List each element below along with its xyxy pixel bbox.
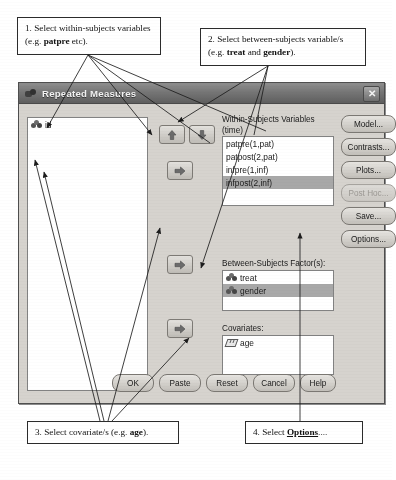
callout-step-3: 3. Select covariate/s (e.g. age). — [27, 421, 179, 444]
dialog-title: Repeated Measures — [42, 88, 136, 99]
list-item[interactable]: id — [28, 118, 147, 131]
callout-step-1: 1. Select within-subjects variables (e.g… — [17, 17, 161, 55]
callout-2-tail: ). — [290, 47, 295, 57]
arrow-right-icon — [173, 259, 187, 271]
callout-3-lead: 3. Select covariate/s (e.g. — [35, 427, 130, 437]
help-button[interactable]: Help — [300, 374, 336, 392]
callout-2-bold2: gender — [263, 47, 290, 57]
within-variable-label: infpre(1,inf) — [226, 165, 268, 175]
variables-icon — [25, 88, 37, 99]
callout-4-tail: .... — [318, 427, 327, 437]
within-subjects-factor-label: (time) — [222, 126, 243, 135]
nominal-icon — [226, 286, 237, 296]
between-variable-label: gender — [240, 286, 266, 296]
save-button-label: Save... — [356, 212, 382, 221]
arrow-right-icon — [173, 323, 187, 335]
scale-icon — [226, 338, 237, 348]
move-to-between-subjects-button[interactable] — [167, 255, 193, 274]
reset-button[interactable]: Reset — [206, 374, 248, 392]
ok-button-label: OK — [127, 379, 139, 388]
callout-2-bold: treat — [227, 47, 246, 57]
list-item[interactable]: patpost(2,pat) — [223, 150, 333, 163]
list-item[interactable]: treat — [223, 271, 333, 284]
plots-button[interactable]: Plots... — [341, 161, 396, 179]
contrasts-button[interactable]: Contrasts... — [341, 138, 396, 156]
within-variable-label: infpost(2,inf) — [226, 178, 272, 188]
arrow-down-icon — [195, 129, 209, 141]
between-subjects-label: Between-Subjects Factor(s): — [222, 259, 325, 268]
callout-4-lead: 4. Select — [253, 427, 287, 437]
covariates-list[interactable]: age — [222, 335, 334, 375]
dialog-body: id — [19, 103, 384, 403]
save-button[interactable]: Save... — [341, 207, 396, 225]
source-variable-list[interactable]: id — [27, 117, 148, 391]
help-button-label: Help — [310, 379, 327, 388]
post-hoc-button: Post Hoc... — [341, 184, 396, 202]
list-item[interactable]: infpre(1,inf) — [223, 163, 333, 176]
paste-button-label: Paste — [170, 379, 191, 388]
covariates-label: Covariates: — [222, 324, 263, 333]
callout-3-bold: age — [130, 427, 143, 437]
callout-2-mid: and — [245, 47, 263, 57]
close-icon[interactable]: ✕ — [363, 86, 380, 102]
within-variable-label: patpost(2,pat) — [226, 152, 278, 162]
arrow-right-icon — [173, 165, 187, 177]
callout-4-bold: Options — [287, 427, 318, 437]
move-to-covariates-button[interactable] — [167, 319, 193, 338]
reset-button-label: Reset — [216, 379, 237, 388]
model-button-label: Model... — [354, 120, 383, 129]
cancel-button-label: Cancel — [261, 379, 287, 388]
callout-step-4: 4. Select Options.... — [245, 421, 363, 444]
list-item[interactable]: gender — [223, 284, 333, 297]
paste-button[interactable]: Paste — [159, 374, 201, 392]
cancel-button[interactable]: Cancel — [253, 374, 295, 392]
callout-1-tail: etc). — [70, 36, 88, 46]
between-subjects-list[interactable]: treat gender — [222, 270, 334, 311]
arrow-up-icon — [165, 129, 179, 141]
ok-button[interactable]: OK — [112, 374, 154, 392]
options-button[interactable]: Options... — [341, 230, 396, 248]
source-variable-label: id — [45, 120, 52, 130]
list-item[interactable]: age — [223, 336, 333, 349]
covariate-label: age — [240, 338, 254, 348]
list-item[interactable]: patpre(1,pat) — [223, 137, 333, 150]
within-subjects-label: Within-Subjects Variables — [222, 115, 315, 124]
between-variable-label: treat — [240, 273, 257, 283]
callout-1-bold: patpre — [44, 36, 70, 46]
move-down-button[interactable] — [189, 125, 215, 144]
options-button-label: Options... — [351, 235, 386, 244]
repeated-measures-dialog: Repeated Measures ✕ id — [18, 82, 385, 404]
move-to-within-subjects-button[interactable] — [167, 161, 193, 180]
post-hoc-button-label: Post Hoc... — [348, 189, 388, 198]
within-variable-label: patpre(1,pat) — [226, 139, 274, 149]
callout-3-tail: ). — [143, 427, 148, 437]
within-subjects-list[interactable]: patpre(1,pat) patpost(2,pat) infpre(1,in… — [222, 136, 334, 206]
callout-step-2: 2. Select between-subjects variable/s (e… — [200, 28, 366, 66]
plots-button-label: Plots... — [356, 166, 381, 175]
model-button[interactable]: Model... — [341, 115, 396, 133]
move-up-button[interactable] — [159, 125, 185, 144]
contrasts-button-label: Contrasts... — [348, 143, 390, 152]
nominal-icon — [31, 120, 42, 130]
list-item[interactable]: infpost(2,inf) — [223, 176, 333, 189]
nominal-icon — [226, 273, 237, 283]
dialog-title-bar: Repeated Measures ✕ — [19, 83, 384, 104]
